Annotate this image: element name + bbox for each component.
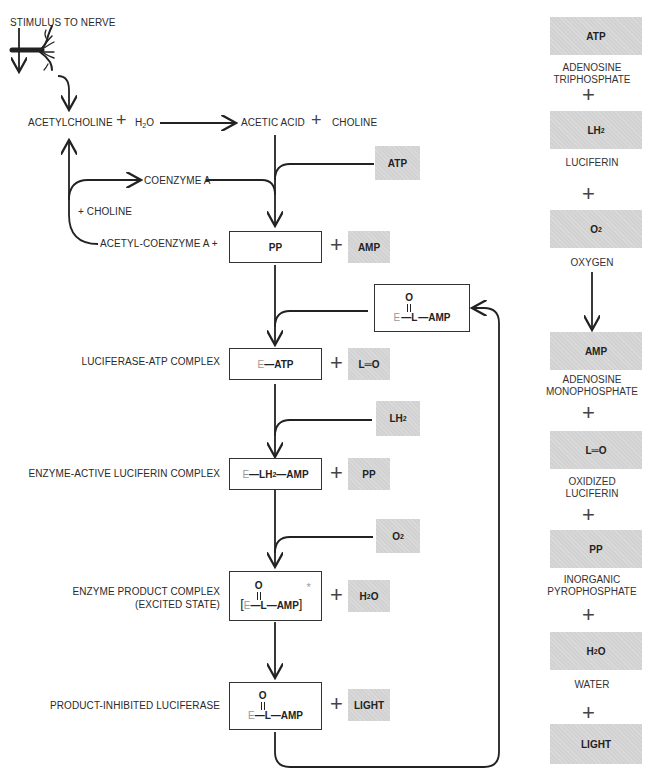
pp-byproduct: PP: [348, 458, 390, 490]
amp-byproduct: AMP: [348, 231, 390, 263]
recycle-box: E O—L —L—AMP—AMP: [374, 284, 470, 332]
pp-box: PP: [229, 231, 322, 263]
acetylcholine-label: ACETYLCHOLINE: [28, 117, 113, 128]
legend-oxidized-luciferin-name: OXIDIZEDLUCIFERIN: [531, 476, 652, 500]
legend-o2-name: OXYGEN: [531, 257, 652, 269]
plus-sign: +: [330, 462, 343, 484]
plus-sign: +: [582, 402, 595, 424]
water-label: H2O: [135, 117, 154, 129]
o2-input: O2: [376, 519, 420, 553]
plus-sign: +: [582, 702, 595, 724]
plus-choline-label: + CHOLINE: [78, 206, 132, 217]
enzyme-product-complex-label: ENZYME PRODUCT COMPLEX(EXCITED STATE): [20, 585, 220, 611]
plus-sign: +: [330, 234, 343, 256]
oxidized-luciferin-byproduct: L═O: [348, 348, 390, 380]
product-inhibited-luciferase-label: PRODUCT-INHIBITED LUCIFERASE: [20, 700, 220, 711]
legend-atp: ATP: [550, 17, 642, 55]
product-inhibited-box: E O—L —AMP: [229, 682, 322, 730]
coenzyme-a-label: COENZYME A: [144, 175, 211, 186]
plus-sign: +: [116, 111, 127, 129]
lh2-input: LH2: [376, 401, 420, 436]
acetyl-coenzyme-a-label: ACETYL-COENZYME A +: [100, 238, 218, 249]
h2o-byproduct: H2O: [348, 580, 390, 612]
enzyme-active-luciferin-label: ENZYME-ACTIVE LUCIFERIN COMPLEX: [20, 468, 220, 479]
plus-sign: +: [582, 604, 595, 626]
legend-lh2: LH2: [550, 111, 642, 149]
plus-sign: +: [582, 84, 595, 106]
plus-sign: +: [311, 111, 322, 129]
stimulus-label: STIMULUS TO NERVE: [10, 17, 116, 28]
legend-pp-name: INORGANICPYROPHOSPHATE: [531, 574, 652, 598]
legend-oxidized-luciferin: L═O: [550, 431, 642, 469]
legend-amp-name: ADENOSINEMONOPHOSPHATE: [531, 374, 652, 398]
atp-input: ATP: [375, 146, 420, 180]
legend-amp: AMP: [550, 332, 642, 370]
legend-o2: O2: [550, 210, 642, 248]
plus-sign: +: [330, 693, 343, 715]
plus-sign: +: [582, 183, 595, 205]
e-l-amp-formula: E O—L —L—AMP—AMP: [393, 293, 450, 323]
acetic-acid-label: ACETIC ACID: [241, 117, 305, 128]
luciferase-atp-label: LUCIFERASE-ATP COMPLEX: [40, 356, 220, 367]
legend-h2o: H2O: [550, 632, 642, 670]
legend-light: LIGHT: [550, 724, 642, 764]
choline-label: CHOLINE: [332, 117, 377, 128]
legend-h2o-name: WATER: [531, 679, 652, 691]
plus-sign: +: [330, 584, 343, 606]
plus-sign: +: [330, 352, 343, 374]
legend-lh2-name: LUCIFERIN: [531, 157, 652, 169]
light-byproduct: LIGHT: [348, 689, 390, 721]
excited-complex-box: [ E O—L —AMP ] *: [229, 571, 322, 621]
legend-pp: PP: [550, 530, 642, 568]
e-lh2-amp-box: E—LH2—AMP: [229, 458, 322, 490]
e-atp-box: E—ATP: [229, 348, 322, 380]
plus-sign: +: [582, 504, 595, 526]
